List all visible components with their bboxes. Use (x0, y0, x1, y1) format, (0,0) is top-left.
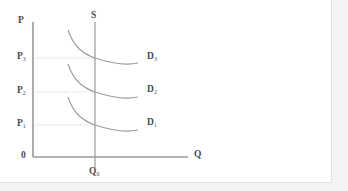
quantity-tick-q0: Q0 (89, 167, 99, 177)
demand-label-d1-text: D (147, 117, 154, 127)
price-tick-p3-text: P (17, 51, 23, 61)
demand-curve-d3 (68, 30, 138, 64)
demand-label-d3-text: D (147, 51, 154, 61)
price-tick-p3-sub: 3 (23, 56, 26, 62)
price-tick-p1-text: P (17, 118, 23, 128)
price-tick-p3: P3 (17, 52, 26, 62)
demand-curve-d2 (68, 64, 138, 98)
supply-demand-chart (0, 0, 348, 191)
price-tick-p2-sub: 2 (23, 90, 26, 96)
demand-curve-d1 (68, 97, 138, 131)
price-tick-p2-text: P (17, 85, 23, 95)
demand-label-d1: D1 (147, 118, 157, 128)
demand-label-d1-sub: 1 (154, 122, 157, 128)
quantity-tick-q0-sub: 0 (96, 171, 99, 177)
demand-label-d3: D3 (147, 52, 157, 62)
price-axis-label: P (18, 16, 24, 26)
demand-label-d2-sub: 2 (154, 89, 157, 95)
origin-label: 0 (21, 151, 26, 161)
price-tick-p1-sub: 1 (23, 123, 26, 129)
price-tick-p2: P2 (17, 86, 26, 96)
quantity-axis-label: Q (194, 150, 201, 160)
supply-curve-label: S (91, 11, 96, 21)
demand-label-d2: D2 (147, 85, 157, 95)
demand-label-d3-sub: 3 (154, 56, 157, 62)
demand-label-d2-text: D (147, 84, 154, 94)
price-tick-p1: P1 (17, 119, 26, 129)
